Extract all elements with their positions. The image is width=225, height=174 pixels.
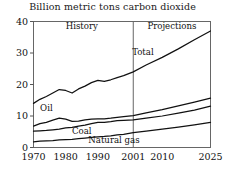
x-axis-tick-labels: 197019801990200120102025 bbox=[21, 151, 222, 162]
y-tick-label: 20 bbox=[16, 79, 28, 90]
y-tick-label: 10 bbox=[16, 110, 28, 121]
annotation-oil: Oil bbox=[40, 103, 53, 113]
annotation-natural-gas: Natural gas bbox=[88, 135, 139, 145]
x-tick-label: 2001 bbox=[121, 151, 145, 162]
series-line-total bbox=[34, 31, 211, 103]
annotation-projections: Projections bbox=[147, 21, 196, 31]
chart-plot-area: 010203040 197019801990200120102025 Histo… bbox=[0, 0, 225, 174]
series-annotations: HistoryProjectionsTotalOilCoalNatural ga… bbox=[40, 21, 196, 145]
chart-container: Billion metric tons carbon dioxide 01020… bbox=[0, 0, 225, 174]
y-axis-tick-labels: 010203040 bbox=[16, 16, 28, 153]
annotation-total: Total bbox=[132, 47, 154, 57]
axis-ticks bbox=[30, 22, 34, 148]
x-tick-label: 2025 bbox=[198, 151, 222, 162]
x-tick-label: 1970 bbox=[21, 151, 45, 162]
y-tick-label: 30 bbox=[16, 47, 28, 58]
x-tick-label: 1990 bbox=[86, 151, 110, 162]
data-series-lines bbox=[34, 31, 211, 142]
x-tick-label: 2010 bbox=[150, 151, 174, 162]
x-tick-label: 1980 bbox=[54, 151, 78, 162]
annotation-history: History bbox=[66, 21, 98, 31]
y-tick-label: 40 bbox=[16, 16, 28, 27]
